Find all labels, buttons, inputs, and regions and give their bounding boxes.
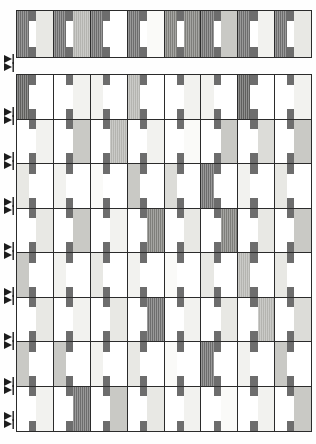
cell-warp-stripe bbox=[29, 209, 36, 253]
knot-square-bottom bbox=[177, 421, 184, 431]
knot-square-top bbox=[287, 120, 294, 130]
cell-right-block bbox=[221, 209, 238, 253]
draft-cell bbox=[17, 253, 54, 297]
draft-cell bbox=[91, 209, 128, 253]
cell-left-block bbox=[238, 298, 250, 342]
draft-cell bbox=[165, 387, 202, 432]
cell-warp-stripe bbox=[287, 11, 294, 57]
cell-left-block bbox=[201, 164, 213, 208]
cell-right-block bbox=[184, 120, 201, 164]
cell-warp-stripe bbox=[287, 209, 294, 253]
knot-square-top bbox=[103, 298, 110, 308]
cell-right-block bbox=[221, 387, 238, 432]
cell-left-block bbox=[275, 342, 287, 386]
cell-right-block bbox=[184, 253, 201, 297]
hatch-texture bbox=[91, 11, 103, 57]
cell-left-block bbox=[91, 120, 103, 164]
double-arrow-marker-icon bbox=[3, 249, 15, 261]
cell-left-block bbox=[201, 298, 213, 342]
knot-square-bottom bbox=[287, 331, 294, 341]
knot-square-top bbox=[250, 11, 257, 21]
knot-square-top bbox=[214, 209, 221, 219]
cell-right-block bbox=[110, 75, 127, 119]
top-strip-block bbox=[16, 10, 312, 58]
cell-warp-stripe bbox=[250, 164, 257, 208]
cell-right-block bbox=[221, 253, 238, 297]
cell-warp-stripe bbox=[140, 209, 147, 253]
cell-warp-stripe bbox=[140, 75, 147, 119]
cell-warp-stripe bbox=[29, 164, 36, 208]
cell-left-block bbox=[201, 342, 213, 386]
knot-square-bottom bbox=[250, 421, 257, 431]
cell-right-block bbox=[294, 298, 311, 342]
knot-square-bottom bbox=[214, 109, 221, 119]
knot-square-top bbox=[287, 209, 294, 219]
knot-square-bottom bbox=[214, 242, 221, 252]
knot-square-top bbox=[177, 342, 184, 352]
draft-cell bbox=[238, 253, 275, 297]
cell-right-block bbox=[73, 75, 90, 119]
knot-square-top bbox=[140, 11, 147, 21]
knot-square-bottom bbox=[66, 109, 73, 119]
draft-cell bbox=[275, 11, 311, 57]
knot-square-top bbox=[287, 298, 294, 308]
draft-cell bbox=[165, 298, 202, 342]
draft-cell bbox=[17, 164, 54, 208]
draft-cell bbox=[238, 342, 275, 386]
draft-cell bbox=[54, 253, 91, 297]
cell-left-block bbox=[17, 120, 29, 164]
cell-warp-stripe bbox=[103, 120, 110, 164]
cell-right-block bbox=[110, 342, 127, 386]
knot-square-top bbox=[29, 298, 36, 308]
cell-left-block bbox=[17, 164, 29, 208]
knot-square-bottom bbox=[214, 376, 221, 386]
knot-square-top bbox=[214, 11, 221, 21]
cell-right-block bbox=[221, 11, 238, 57]
double-arrow-marker-icon bbox=[3, 159, 15, 171]
cell-left-block bbox=[17, 209, 29, 253]
knot-square-top bbox=[29, 75, 36, 85]
draft-cell bbox=[165, 75, 202, 119]
cell-right-block bbox=[73, 253, 90, 297]
cell-right-block bbox=[258, 164, 275, 208]
knot-square-top bbox=[29, 11, 36, 21]
knot-square-bottom bbox=[29, 287, 36, 297]
cell-left-block bbox=[238, 209, 250, 253]
knot-square-bottom bbox=[103, 242, 110, 252]
cell-left-block bbox=[128, 342, 140, 386]
cell-warp-stripe bbox=[103, 342, 110, 386]
knot-square-bottom bbox=[29, 331, 36, 341]
cell-warp-stripe bbox=[250, 253, 257, 297]
cell-warp-stripe bbox=[103, 164, 110, 208]
knot-square-bottom bbox=[29, 198, 36, 208]
knot-square-bottom bbox=[287, 198, 294, 208]
cell-warp-stripe bbox=[177, 387, 184, 432]
knot-square-top bbox=[66, 342, 73, 352]
cell-left-block bbox=[201, 387, 213, 432]
cell-left-block bbox=[238, 253, 250, 297]
cell-right-block bbox=[294, 75, 311, 119]
cell-right-block bbox=[147, 75, 164, 119]
cell-warp-stripe bbox=[140, 298, 147, 342]
knot-square-top bbox=[140, 253, 147, 263]
knot-square-bottom bbox=[214, 287, 221, 297]
cell-warp-stripe bbox=[250, 120, 257, 164]
cell-warp-stripe bbox=[250, 298, 257, 342]
hatch-texture bbox=[184, 11, 201, 57]
knot-square-top bbox=[250, 253, 257, 263]
cell-left-block bbox=[128, 75, 140, 119]
knot-square-top bbox=[29, 387, 36, 397]
cell-left-block bbox=[54, 298, 66, 342]
cell-right-block bbox=[184, 11, 201, 57]
cell-warp-stripe bbox=[214, 253, 221, 297]
cell-left-block bbox=[275, 120, 287, 164]
cell-left-block bbox=[275, 11, 287, 57]
cell-right-block bbox=[73, 387, 90, 432]
cell-warp-stripe bbox=[287, 164, 294, 208]
cell-left-block bbox=[201, 253, 213, 297]
draft-cell bbox=[17, 120, 54, 164]
cell-left-block bbox=[17, 75, 29, 119]
cell-warp-stripe bbox=[103, 75, 110, 119]
cell-right-block bbox=[221, 298, 238, 342]
cell-warp-stripe bbox=[66, 387, 73, 432]
